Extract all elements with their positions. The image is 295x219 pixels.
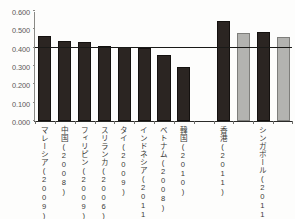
- bar: [138, 48, 151, 121]
- x-tick-mark: [174, 121, 175, 124]
- x-tick-mark: [194, 121, 195, 124]
- y-tick-mark: [33, 102, 35, 103]
- y-tick-label: 0.600: [12, 8, 30, 17]
- y-tick-label: 0.200: [12, 81, 30, 90]
- y-tick-mark: [33, 28, 35, 29]
- y-tick-mark: [33, 10, 35, 11]
- bar: [98, 46, 111, 121]
- x-axis-label: フィリピン(2009): [80, 126, 88, 219]
- plot-area: [34, 12, 292, 122]
- x-tick-mark: [273, 121, 274, 124]
- bar-chart: 0.6000.5000.4000.3000.2000.1000.000 マレーシ…: [0, 0, 295, 219]
- x-tick-mark: [95, 121, 96, 124]
- x-axis-label: マレーシア(2009): [40, 126, 48, 219]
- y-tick-mark: [33, 83, 35, 84]
- x-axis-label: インドネシア(2011): [139, 126, 147, 219]
- x-tick-mark: [253, 121, 254, 124]
- y-tick-label: 0.000: [12, 118, 30, 127]
- bar: [78, 42, 91, 121]
- x-tick-mark: [75, 121, 76, 124]
- x-tick-mark: [134, 121, 135, 124]
- bar: [217, 21, 230, 121]
- x-tick-mark: [35, 121, 36, 124]
- y-tick-mark: [33, 47, 35, 48]
- bar: [257, 32, 270, 121]
- y-tick-label: 0.500: [12, 26, 30, 35]
- y-tick-label: 0.400: [12, 44, 30, 53]
- bar: [118, 47, 131, 121]
- y-tick-label: 0.100: [12, 99, 30, 108]
- reference-line: [35, 47, 292, 48]
- x-axis: マレーシア(2009)中国(2008)フィリピン(2009)スリランカ(2006…: [34, 126, 292, 218]
- x-tick-mark: [154, 121, 155, 124]
- x-axis-label: ベトナム(2008): [159, 126, 167, 212]
- x-tick-mark: [114, 121, 115, 124]
- x-axis-ticks: [35, 121, 292, 124]
- x-tick-mark: [214, 121, 215, 124]
- y-axis: 0.6000.5000.4000.3000.2000.1000.000: [0, 0, 33, 130]
- x-axis-label: 中国(2008): [60, 126, 68, 196]
- x-tick-mark: [55, 121, 56, 124]
- x-axis-label: タイ(2009): [119, 126, 127, 196]
- x-axis-label: シンガポール(2011): [258, 126, 266, 219]
- x-axis-label: 香港(2011): [219, 126, 227, 196]
- bar: [177, 67, 190, 121]
- x-axis-label: 韓国(2010): [179, 126, 187, 196]
- y-tick-mark: [33, 120, 35, 121]
- x-tick-mark: [292, 121, 293, 124]
- y-tick-mark: [33, 65, 35, 66]
- y-tick-label: 0.300: [12, 63, 30, 72]
- bars-layer: [35, 12, 292, 121]
- x-tick-mark: [233, 121, 234, 124]
- x-axis-label: スリランカ(2006): [99, 126, 107, 219]
- bar: [38, 36, 51, 121]
- bar: [277, 37, 290, 121]
- bar: [157, 55, 170, 121]
- bar: [58, 41, 71, 121]
